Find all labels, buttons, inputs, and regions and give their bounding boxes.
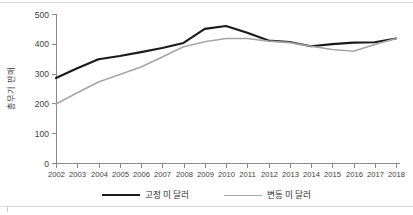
y-tick-label: 200 — [35, 99, 49, 109]
x-tick-label: 2007 — [154, 170, 171, 179]
series-line-fixed-usd — [56, 26, 396, 78]
x-tick-label: 2012 — [261, 170, 278, 179]
x-tick-label: 2016 — [346, 170, 363, 179]
legend-label-floating: 변동 미 달러 — [267, 191, 312, 200]
x-tick-label: 2005 — [112, 170, 129, 179]
legend-line-sample-floating — [224, 195, 262, 196]
y-tick-label: 400 — [35, 39, 49, 49]
x-tick-label: 2002 — [48, 170, 65, 179]
y-axis-title: 총무기 판매 — [7, 67, 16, 109]
series-line-floating-usd — [56, 38, 396, 104]
y-axis-title-text: 총무기 판매 — [7, 67, 16, 109]
x-tick-label: 2013 — [282, 170, 299, 179]
chart-legend: 고정 미 달러 변동 미 달러 — [0, 186, 413, 204]
x-tick-label: 2015 — [324, 170, 341, 179]
x-tick-label: 2009 — [197, 170, 214, 179]
legend-item-fixed-usd[interactable]: 고정 미 달러 — [102, 191, 190, 200]
y-tick-label: 500 — [35, 10, 49, 20]
y-tick-label: 100 — [35, 129, 49, 139]
y-tick-label: 300 — [35, 69, 49, 79]
y-axis: 0100200300400500 — [35, 10, 56, 169]
x-tick-label: 2011 — [239, 170, 255, 179]
x-tick-label: 2008 — [176, 170, 193, 179]
y-tick-label: 0 — [44, 159, 49, 169]
legend-line-sample-fixed — [102, 194, 140, 196]
legend-label-fixed: 고정 미 달러 — [145, 191, 190, 200]
x-tick-label: 2004 — [91, 170, 108, 179]
series-lines — [56, 26, 396, 104]
plot-area: 0100200300400500 20022003200420052006200… — [0, 0, 413, 215]
x-tick-label: 2003 — [69, 170, 86, 179]
legend-item-floating-usd[interactable]: 변동 미 달러 — [224, 191, 312, 200]
x-tick-label: 2017 — [367, 170, 384, 179]
x-tick-label: 2010 — [218, 170, 235, 179]
x-axis: 2002200320042005200620072008200920102011… — [48, 163, 405, 179]
line-chart-svg: 0100200300400500 20022003200420052006200… — [0, 0, 413, 215]
x-tick-label: 2006 — [133, 170, 150, 179]
chart-figure: 0100200300400500 20022003200420052006200… — [0, 0, 413, 215]
x-tick-label: 2018 — [388, 170, 405, 179]
x-tick-label: 2014 — [303, 170, 320, 179]
